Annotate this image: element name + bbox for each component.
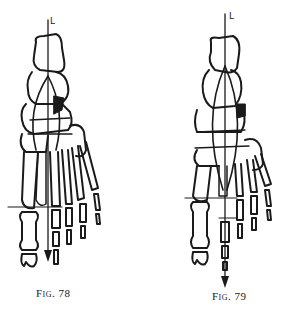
figure-78: L Fig. 78	[0, 0, 141, 310]
figure-caption: Fig. 78	[36, 287, 71, 299]
figure-79: L Fig. 79	[141, 0, 282, 310]
foot-skeleton-diagram-79	[141, 0, 282, 310]
axis-label-l: L	[229, 11, 234, 21]
figure-caption: Fig. 79	[212, 290, 247, 302]
foot-skeleton-diagram-78	[0, 0, 141, 310]
axis-label-l: L	[50, 16, 55, 26]
